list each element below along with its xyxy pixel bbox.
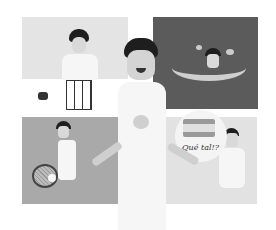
tennis-boy-face: [58, 126, 69, 138]
spanish-boy-body: [219, 148, 245, 188]
center-boy-face: [127, 50, 155, 80]
ink-bottle-icon: [38, 92, 48, 100]
tennis-boy-body: [58, 140, 76, 180]
spain-flag-icon: [183, 119, 215, 137]
spanish-boy-face: [226, 133, 238, 147]
apple-icon: [133, 115, 149, 129]
swimmer-face: [207, 54, 219, 68]
science-boy-face: [72, 37, 86, 53]
bubble-icon: [226, 49, 234, 55]
center-boy-body: [118, 82, 166, 230]
tennis-ball-icon: [48, 174, 56, 182]
speech-bubble-text: Qué tal!?: [182, 143, 219, 152]
bubble-icon: [196, 45, 202, 50]
science-boy-body: [62, 54, 98, 80]
lab-stand-icon: [66, 80, 92, 110]
